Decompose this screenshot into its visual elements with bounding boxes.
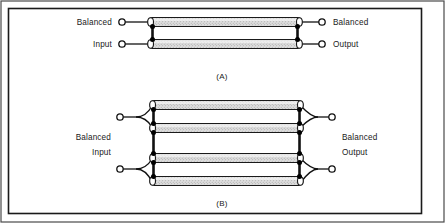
panel-a-output-terminal-top[interactable] xyxy=(319,19,325,25)
panel-b-node-left-3 xyxy=(151,130,156,135)
panel-b-cable-1 xyxy=(150,101,304,110)
panel-a-node-left-bottom xyxy=(150,37,155,42)
panel-a-cable-2 xyxy=(148,40,303,49)
panel-b-node-left-1 xyxy=(151,107,156,112)
balanced-line-figure: Balanced Input Balanced Output (A) xyxy=(0,0,445,223)
panel-b-output-label-line2: Output xyxy=(342,148,368,157)
panel-a-input-terminal-top[interactable] xyxy=(119,19,125,25)
figure-container: Balanced Input Balanced Output (A) xyxy=(0,0,445,223)
panel-b-node-left-4 xyxy=(151,151,156,156)
panel-a-input-terminal-bottom[interactable] xyxy=(119,41,125,47)
panel-b-caption: (B) xyxy=(216,199,227,208)
panel-b-node-right-3 xyxy=(297,130,302,135)
panel-b-output-terminal-top[interactable] xyxy=(329,114,335,120)
panel-b-cable-4 xyxy=(150,177,304,186)
panel-b-output-label-line1: Balanced xyxy=(342,133,378,142)
panel-b-input-terminal-bottom[interactable] xyxy=(117,166,123,172)
panel-a-output-label-line2: Output xyxy=(333,40,359,49)
panel-b-input-terminal-top[interactable] xyxy=(117,114,123,120)
panel-a-node-right-bottom xyxy=(295,37,300,42)
panel-b-output-terminal-bottom[interactable] xyxy=(329,166,335,172)
panel-b-node-right-5 xyxy=(297,160,302,165)
panel-b-input-label-line2: Input xyxy=(92,148,112,157)
panel-a-input-label-line1: Balanced xyxy=(77,18,113,27)
panel-a-node-left-top xyxy=(150,24,155,29)
panel-b-cable-2 xyxy=(150,124,304,133)
panel-b-node-right-1 xyxy=(297,107,302,112)
panel-b-node-left-5 xyxy=(151,160,156,165)
panel-b-node-right-4 xyxy=(297,151,302,156)
panel-b-node-right-2 xyxy=(297,121,302,126)
panel-a-cable-1 xyxy=(148,18,303,27)
panel-b-cable-3 xyxy=(150,154,304,163)
panel-b-input-label-line1: Balanced xyxy=(76,133,112,142)
panel-a-caption: (A) xyxy=(216,72,227,81)
panel-a-output-label-line1: Balanced xyxy=(333,18,369,27)
panel-a-input-label-line2: Input xyxy=(93,40,113,49)
panel-a-node-right-top xyxy=(295,24,300,29)
panel-a-output-terminal-bottom[interactable] xyxy=(319,41,325,47)
panel-b-node-left-6 xyxy=(151,174,156,179)
panel-b-node-right-6 xyxy=(297,174,302,179)
panel-b-node-left-2 xyxy=(151,121,156,126)
